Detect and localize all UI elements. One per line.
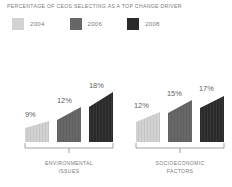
bar-value-env-2006: 12%: [57, 96, 72, 105]
bar-socio-2004: [136, 112, 160, 142]
bar-env-2004: [25, 121, 49, 142]
bar-env-2006: [57, 107, 81, 142]
bar-value-socio-2006: 15%: [167, 89, 182, 98]
bar-socio-2006: [168, 100, 192, 142]
bar-value-socio-2004: 12%: [134, 101, 149, 110]
bracket-environmental-issues: [25, 143, 113, 153]
bar-env-2008: [89, 92, 113, 142]
chart-plot-area: [0, 0, 232, 187]
bar-value-env-2008: 18%: [89, 81, 104, 90]
bar-socio-2008: [200, 96, 224, 142]
chart-container: PERCENTAGE OF CEOS SELECTING AS A TOP CH…: [0, 0, 232, 187]
bracket-socioeconomic-factors: [136, 143, 224, 153]
bar-value-socio-2008: 17%: [199, 84, 214, 93]
group-label-socioeconomic-factors: SOCIOECONOMIC FACTORS: [135, 160, 225, 175]
bar-value-env-2004: 9%: [25, 110, 36, 119]
group-label-environmental-issues: ENVIRONMENTAL ISSUES: [24, 160, 114, 175]
